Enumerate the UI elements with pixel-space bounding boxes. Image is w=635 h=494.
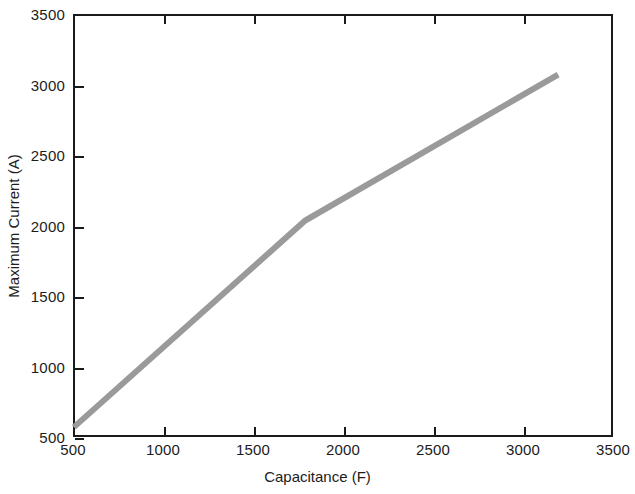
- y-axis-tick: [75, 368, 84, 370]
- y-axis-tick-label: 3000: [31, 76, 65, 93]
- x-axis-tick-label: 3500: [596, 441, 630, 458]
- x-axis-tick-bottom: [254, 427, 256, 435]
- y-axis-title: Maximum Current (A): [5, 154, 22, 297]
- x-axis-tick-top: [524, 16, 526, 24]
- x-axis-tick-label: 2000: [326, 441, 360, 458]
- y-axis-tick-label: 2000: [31, 217, 65, 234]
- x-axis-title: Capacitance (F): [0, 468, 635, 485]
- chart-figure: Maximum Current (A) 50010001500200025003…: [0, 0, 635, 494]
- x-axis-tick-label: 1000: [146, 441, 180, 458]
- x-axis-tick-label: 1500: [236, 441, 270, 458]
- x-axis-tick-top: [434, 16, 436, 24]
- x-axis-tick-label: 3000: [506, 441, 540, 458]
- y-axis-tick: [75, 297, 84, 299]
- y-axis-tick: [75, 438, 84, 440]
- y-axis-tick-label: 1500: [31, 288, 65, 305]
- y-axis-title-container: Maximum Current (A): [0, 0, 26, 451]
- y-axis-tick: [75, 86, 84, 88]
- y-axis-tick-label: 3500: [31, 6, 65, 23]
- x-axis-tick-bottom: [434, 427, 436, 435]
- plot-area: [73, 14, 613, 437]
- x-axis-tick-bottom: [524, 427, 526, 435]
- x-axis-tick-top: [164, 16, 166, 24]
- x-axis-tick-bottom: [164, 427, 166, 435]
- x-axis-tick-bottom: [344, 427, 346, 435]
- y-axis-tick-label: 2500: [31, 147, 65, 164]
- x-axis-tick-top: [254, 16, 256, 24]
- y-axis-tick: [75, 156, 84, 158]
- x-axis-tick-label: 2500: [416, 441, 450, 458]
- y-axis-tick-label: 1000: [31, 358, 65, 375]
- y-axis-tick-label: 500: [39, 429, 65, 446]
- x-axis-tick-top: [344, 16, 346, 24]
- y-axis-tick: [75, 227, 84, 229]
